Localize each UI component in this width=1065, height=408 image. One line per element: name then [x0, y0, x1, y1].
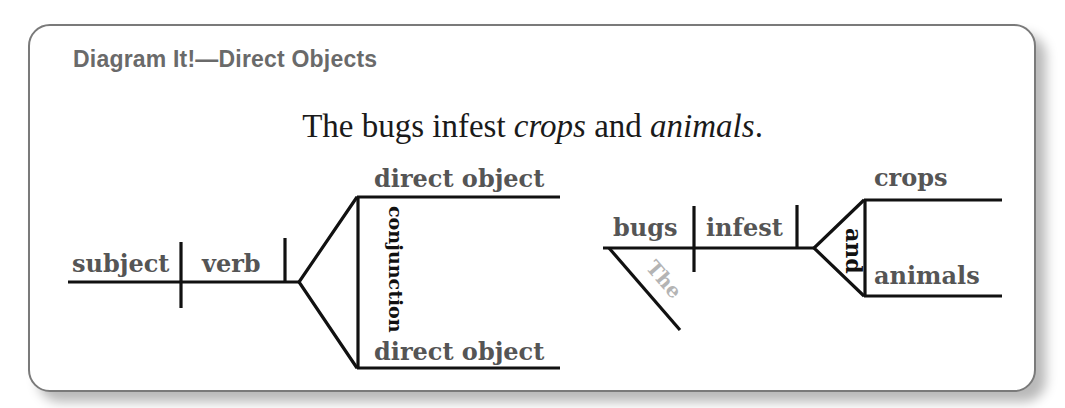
direct-object-top-label: crops [874, 163, 948, 192]
modifier-label: The [641, 256, 687, 304]
template-diagram: subject verb direct object direct object… [68, 164, 560, 369]
conjunction-label: and [841, 228, 867, 274]
subject-label: subject [72, 249, 169, 278]
direct-object-bottom-label: direct object [374, 337, 544, 366]
example-diagram: bugs infest crops animals and The [603, 163, 1002, 330]
conjunction-label: conjunction [385, 206, 407, 333]
direct-object-top-label: direct object [374, 164, 544, 193]
verb-label: infest [706, 213, 783, 242]
sentence-diagrams: subject verb direct object direct object… [0, 0, 1065, 408]
verb-label: verb [201, 249, 261, 278]
compound-fork [299, 197, 357, 368]
direct-object-bottom-label: animals [874, 261, 980, 290]
subject-label: bugs [613, 213, 678, 242]
